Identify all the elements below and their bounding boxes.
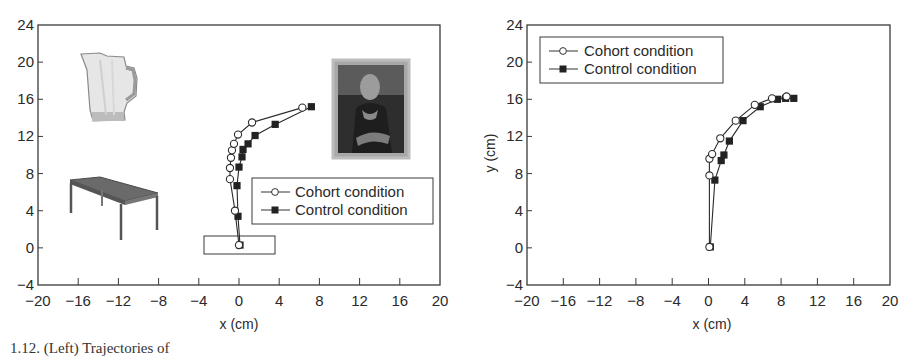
right-series-layer [706, 93, 798, 251]
x-tick-label: −4 [190, 292, 207, 309]
control-series-line [710, 98, 794, 247]
cohort-data-point [768, 95, 775, 102]
x-tick-label: 12 [809, 292, 826, 309]
y-tick-label: −4 [17, 276, 34, 293]
control-data-point [235, 163, 242, 170]
cohort-data-point [248, 119, 255, 126]
cohort-data-point [235, 241, 242, 248]
cohort-data-point [234, 131, 241, 138]
y-tick-label: 8 [26, 165, 34, 182]
x-tick-label: −8 [150, 292, 167, 309]
cohort-data-point [230, 140, 237, 147]
left-x-axis: −20−16−12−8−4048121620 [25, 278, 448, 309]
y-tick-label: 12 [506, 127, 523, 144]
open-circle-marker-icon [272, 189, 279, 196]
figure-caption: 1.12. (Left) Trajectories of [10, 340, 170, 357]
y-tick-label: 16 [506, 90, 523, 107]
left-legend: Cohort condition Control condition [252, 178, 433, 224]
cohort-data-point [227, 154, 234, 161]
y-tick-label: 20 [17, 53, 34, 70]
right-y-axis: −404812162024 [506, 16, 532, 293]
x-tick-label: 20 [432, 292, 449, 309]
open-circle-marker-icon [560, 48, 567, 55]
x-tick-label: 4 [275, 292, 283, 309]
control-data-point [233, 182, 240, 189]
x-tick-label: 16 [845, 292, 862, 309]
right-legend: Cohort condition Control condition [540, 37, 723, 83]
cohort-series-line [709, 97, 786, 247]
filled-square-marker-icon [272, 207, 279, 214]
left-chart: −404812162024 −20−16−12−8−4048121620 x (… [17, 16, 448, 332]
x-tick-label: −12 [587, 292, 612, 309]
y-tick-label: 20 [506, 53, 523, 70]
y-tick-label: 12 [17, 127, 34, 144]
y-tick-label: 0 [26, 239, 34, 256]
table-image [70, 177, 158, 240]
x-tick-label: −20 [514, 292, 539, 309]
x-tick-label: −4 [664, 292, 681, 309]
x-tick-label: 20 [882, 292, 899, 309]
left-y-axis: −404812162024 [17, 16, 43, 293]
right-legend-label-control: Control condition [584, 60, 697, 77]
cohort-data-point [717, 135, 724, 142]
y-tick-label: 24 [17, 16, 34, 33]
x-tick-label: 8 [315, 292, 323, 309]
control-data-point [790, 95, 797, 102]
x-tick-label: 0 [235, 292, 243, 309]
cohort-data-point [226, 164, 233, 171]
y-tick-label: 24 [506, 16, 523, 33]
right-legend-label-cohort: Cohort condition [584, 42, 693, 59]
x-tick-label: 8 [777, 292, 785, 309]
x-tick-label: 4 [741, 292, 749, 309]
cohort-data-point [706, 172, 713, 179]
control-data-point [244, 140, 251, 147]
control-data-point [272, 121, 279, 128]
right-chart: −404812162024 −20−16−12−8−4048121620 x (… [482, 16, 898, 332]
cohort-data-point [783, 93, 790, 100]
right-y-axis-label: y (cm) [482, 134, 498, 173]
left-series-layer [226, 103, 315, 249]
left-legend-label-control: Control condition [295, 201, 408, 218]
cohort-data-point [732, 117, 739, 124]
x-tick-label: −20 [25, 292, 50, 309]
x-tick-label: −16 [65, 292, 90, 309]
y-tick-label: 4 [515, 202, 523, 219]
y-tick-label: 16 [17, 90, 34, 107]
y-tick-label: −4 [506, 276, 523, 293]
cohort-data-point [709, 150, 716, 157]
pitcher-image [81, 53, 137, 121]
y-tick-label: 4 [26, 202, 34, 219]
cohort-data-point [231, 207, 238, 214]
control-data-point [726, 137, 733, 144]
cohort-data-point [706, 243, 713, 250]
x-tick-label: −16 [551, 292, 576, 309]
x-tick-label: 0 [704, 292, 712, 309]
cohort-data-point [299, 104, 306, 111]
control-data-point [720, 151, 727, 158]
control-data-point [251, 132, 258, 139]
x-tick-label: −12 [106, 292, 131, 309]
y-tick-label: 8 [515, 165, 523, 182]
control-data-point [238, 153, 245, 160]
control-data-point [739, 117, 746, 124]
x-tick-label: 16 [391, 292, 408, 309]
left-legend-label-cohort: Cohort condition [295, 183, 404, 200]
x-tick-label: 12 [351, 292, 368, 309]
painting-image [333, 60, 409, 158]
x-tick-label: −8 [627, 292, 644, 309]
right-x-axis-label: x (cm) [693, 316, 732, 332]
filled-square-marker-icon [560, 66, 567, 73]
cohort-data-point [751, 101, 758, 108]
cohort-data-point [226, 176, 233, 183]
right-x-axis: −20−16−12−8−4048121620 [514, 278, 898, 309]
left-x-axis-label: x (cm) [220, 316, 259, 332]
y-tick-label: 0 [515, 239, 523, 256]
control-data-point [308, 103, 315, 110]
